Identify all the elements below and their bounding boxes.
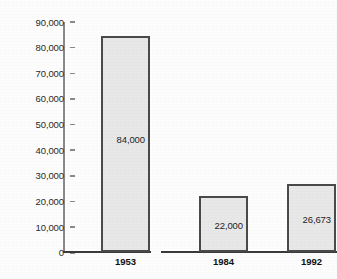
bar-value-label: 26,673 — [303, 214, 331, 225]
bar-group: 22,000 1984 — [161, 22, 249, 253]
bar[interactable]: 26,673 — [287, 184, 336, 253]
bar-value-label: 84,000 — [117, 134, 145, 145]
bar-value-label: 22,000 — [215, 220, 243, 231]
bar-category-label: 1984 — [199, 256, 248, 267]
bar-category-label: 1992 — [287, 256, 336, 267]
bar-group: 26,673 1992 — [249, 22, 337, 253]
bar[interactable]: 84,000 — [101, 36, 150, 252]
bar-chart: 90,000 80,000 70,000 60,000 50,000 40,00… — [0, 0, 337, 279]
plot-area: 84,000 1953 22,000 1984 26,673 1992 — [63, 22, 337, 253]
bar[interactable]: 22,000 — [199, 196, 248, 253]
bar-category-label: 1953 — [101, 256, 150, 267]
bar-group: 84,000 1953 — [63, 22, 151, 253]
